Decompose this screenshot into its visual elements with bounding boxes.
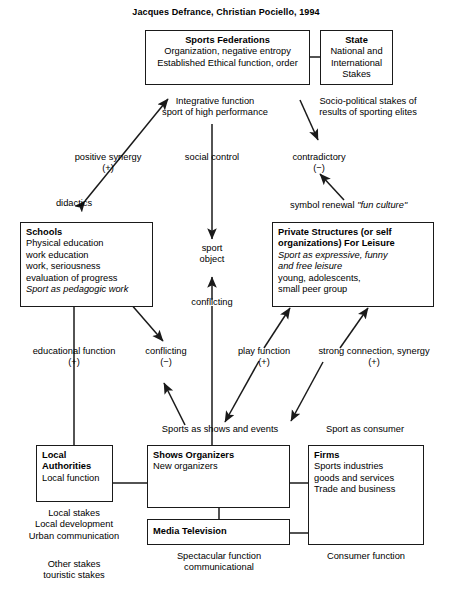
node-schools[interactable]: Schools Physical education work educatio… bbox=[20, 222, 153, 307]
sports-federations-line2: Established Ethical function, order bbox=[151, 58, 304, 69]
shows-organizers-line1: New organizers bbox=[153, 461, 284, 472]
firms-header: Firms bbox=[314, 450, 418, 461]
label-socio-political-stakes: Socio-political stakes of results of spo… bbox=[288, 96, 448, 119]
local-authorities-line1: Local function bbox=[42, 473, 107, 484]
label-conflicting-minus: conflicting (−) bbox=[137, 346, 195, 369]
shows-organizers-header: Shows Organizers bbox=[153, 450, 284, 461]
firms-line2: goods and services bbox=[314, 473, 418, 484]
node-private-structures[interactable]: Private Structures (or self organization… bbox=[272, 222, 434, 307]
media-television-header: Media Television bbox=[153, 526, 284, 537]
label-sports-as-shows: Sports as shows and events bbox=[150, 424, 290, 435]
local-authorities-header-line2: Authorities bbox=[42, 461, 107, 472]
firms-line3: Trade and business bbox=[314, 484, 418, 495]
private-structures-line4: small peer group bbox=[278, 284, 428, 295]
private-structures-line3: young, adolescents, bbox=[278, 273, 428, 284]
node-firms[interactable]: Firms Sports industries goods and servic… bbox=[308, 445, 424, 545]
label-positive-synergy: positive synergy (+) bbox=[56, 152, 160, 175]
label-consumer-function: Consumer function bbox=[306, 551, 426, 562]
label-educational-function: educational function (+) bbox=[14, 346, 134, 369]
label-integrative-function: Integrative function sport of high perfo… bbox=[150, 96, 280, 119]
label-didactics: didactics bbox=[38, 198, 110, 209]
link-strongconnection-private bbox=[340, 308, 368, 348]
state-line2: International bbox=[326, 58, 387, 69]
label-sport-as-consumer: Sport as consumer bbox=[306, 424, 424, 435]
diagram-canvas: Jacques Defrance, Christian Pociello, 19… bbox=[0, 0, 452, 595]
schools-header: Schools bbox=[26, 227, 147, 238]
sports-federations-line1: Organization, negative entropy bbox=[151, 46, 304, 57]
symbol-renewal-italic: "fun culture" bbox=[357, 200, 407, 210]
label-local-stakes: Local stakes Local development Urban com… bbox=[8, 508, 140, 542]
symbol-renewal-plain: symbol renewal bbox=[290, 200, 357, 210]
link-playfunction-shows bbox=[225, 361, 259, 422]
link-playfunction-private bbox=[264, 308, 290, 348]
node-media-television[interactable]: Media Television bbox=[147, 519, 290, 545]
schools-line4: evaluation of progress bbox=[26, 273, 147, 284]
private-structures-header-line2: organizations) For Leisure bbox=[278, 238, 428, 249]
label-spectacular-function: Spectacular function communicational bbox=[152, 551, 286, 574]
node-shows-organizers[interactable]: Shows Organizers New organizers bbox=[147, 445, 290, 508]
label-play-function: play function (+) bbox=[228, 346, 300, 369]
firms-line1: Sports industries bbox=[314, 461, 418, 472]
label-symbol-renewal: symbol renewal "fun culture" bbox=[290, 200, 450, 211]
label-social-control: social control bbox=[170, 152, 254, 163]
schools-line5: Sport as pedagogic work bbox=[26, 284, 147, 295]
node-sports-federations[interactable]: Sports Federations Organization, negativ… bbox=[145, 30, 310, 85]
state-line1: National and bbox=[326, 46, 387, 57]
label-contradictory: contradictory (−) bbox=[272, 152, 366, 175]
diagram-title: Jacques Defrance, Christian Pociello, 19… bbox=[0, 7, 452, 17]
label-strong-connection: strong connection, synergy (+) bbox=[303, 346, 445, 369]
node-state[interactable]: State National and International Stakes bbox=[320, 30, 393, 85]
schools-line2: work education bbox=[26, 250, 147, 261]
schools-line1: Physical education bbox=[26, 238, 147, 249]
label-other-stakes: Other stakes touristic stakes bbox=[8, 559, 140, 582]
link-shows-conflicting bbox=[164, 383, 185, 425]
sports-federations-header: Sports Federations bbox=[151, 35, 304, 46]
link-schools-conflicting bbox=[130, 303, 163, 341]
node-local-authorities[interactable]: Local Authorities Local function bbox=[36, 445, 113, 502]
local-authorities-header-line1: Local bbox=[42, 450, 107, 461]
private-structures-italic-line1: Sport as expressive, funny bbox=[278, 250, 428, 261]
private-structures-header-line1: Private Structures (or self bbox=[278, 227, 428, 238]
label-conflicting-center: conflicting bbox=[180, 297, 244, 308]
schools-line3: work, seriousness bbox=[26, 261, 147, 272]
state-header: State bbox=[326, 35, 387, 46]
private-structures-italic-line2: and free leisure bbox=[278, 261, 428, 272]
link-strongconnection-consumer bbox=[291, 362, 323, 421]
link-symbolrenewal-contradictory bbox=[320, 174, 344, 200]
state-line3: Stakes bbox=[326, 69, 387, 80]
label-sport-object: sport object bbox=[182, 243, 242, 266]
